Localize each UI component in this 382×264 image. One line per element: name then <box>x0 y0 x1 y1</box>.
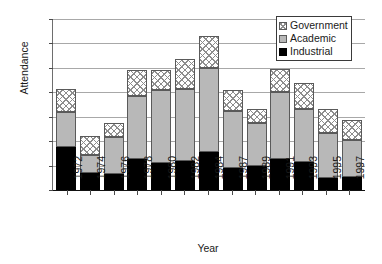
x-tick-mark <box>349 190 350 195</box>
x-tick-mark <box>137 190 138 195</box>
x-axis-tick-labels: 1972197419761978198019821984198719891991… <box>52 196 364 236</box>
legend-label: Industrial <box>290 46 333 57</box>
segment-government <box>223 90 243 111</box>
x-tick-label: 1995 <box>331 156 343 196</box>
x-tick-label: 1982 <box>189 156 201 196</box>
x-tick-label: 1987 <box>237 156 249 196</box>
segment-academic <box>199 68 219 152</box>
attendance-stacked-bar-chart: Attendance 020406080100120140 1972197419… <box>0 0 382 264</box>
segment-government <box>199 36 219 68</box>
x-tick-label: 1997 <box>354 156 366 196</box>
segment-government <box>127 70 147 96</box>
x-tick-label: 1980 <box>166 156 178 196</box>
chart-legend: Government Academic Industrial <box>276 16 352 61</box>
legend-item-industrial: Industrial <box>279 45 348 58</box>
segment-academic <box>151 90 171 163</box>
x-tick-mark <box>161 190 162 195</box>
segment-academic <box>175 89 195 161</box>
x-tick-label: 1978 <box>142 156 154 196</box>
x-tick-mark <box>279 190 280 195</box>
legend-item-government: Government <box>279 19 348 32</box>
x-tick-mark <box>114 190 115 195</box>
x-tick-mark <box>184 190 185 195</box>
x-tick-label: 1989 <box>260 156 272 196</box>
x-tick-mark <box>255 190 256 195</box>
black-swatch-icon <box>279 48 287 56</box>
segment-government <box>294 83 314 110</box>
x-tick-label: 1984 <box>213 156 225 196</box>
x-tick-label: 1991 <box>284 156 296 196</box>
x-tick-label: 1976 <box>119 156 131 196</box>
x-tick-mark <box>302 190 303 195</box>
segment-government <box>270 69 290 92</box>
x-tick-mark <box>67 190 68 195</box>
y-axis-title: Attendance <box>18 8 30 128</box>
segment-academic <box>270 92 290 159</box>
x-tick-label: 1974 <box>95 156 107 196</box>
x-tick-mark <box>232 190 233 195</box>
segment-academic <box>127 96 147 160</box>
x-tick-label: 1993 <box>307 156 319 196</box>
x-tick-label: 1972 <box>72 156 84 196</box>
segment-academic <box>56 112 76 147</box>
segment-academic <box>294 109 314 162</box>
gray-swatch-icon <box>279 35 287 43</box>
x-tick-mark <box>90 190 91 195</box>
legend-item-academic: Academic <box>279 32 348 45</box>
x-axis-title: Year <box>52 242 364 254</box>
segment-government <box>80 136 100 154</box>
x-tick-mark <box>208 190 209 195</box>
segment-government <box>175 59 195 88</box>
segment-government <box>151 70 171 90</box>
segment-government <box>247 109 267 122</box>
segment-government <box>56 89 76 112</box>
x-tick-mark <box>326 190 327 195</box>
legend-label: Academic <box>290 33 336 44</box>
segment-government <box>104 123 124 138</box>
legend-label: Government <box>290 20 348 31</box>
segment-government <box>342 120 362 140</box>
segment-government <box>318 109 338 132</box>
crosshatch-swatch-icon <box>279 22 287 30</box>
